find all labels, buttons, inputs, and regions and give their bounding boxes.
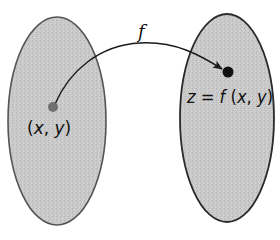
codomain-set-ellipse <box>180 14 274 222</box>
function-label-f: f <box>136 21 148 42</box>
function-mapping-diagram: f (x, y) z = f (x, y) <box>0 0 280 240</box>
codomain-point-dot <box>223 67 234 78</box>
codomain-point-label: z = f (x, y) <box>186 87 273 107</box>
domain-point-label: (x, y) <box>27 118 71 138</box>
domain-point-dot <box>48 102 58 112</box>
